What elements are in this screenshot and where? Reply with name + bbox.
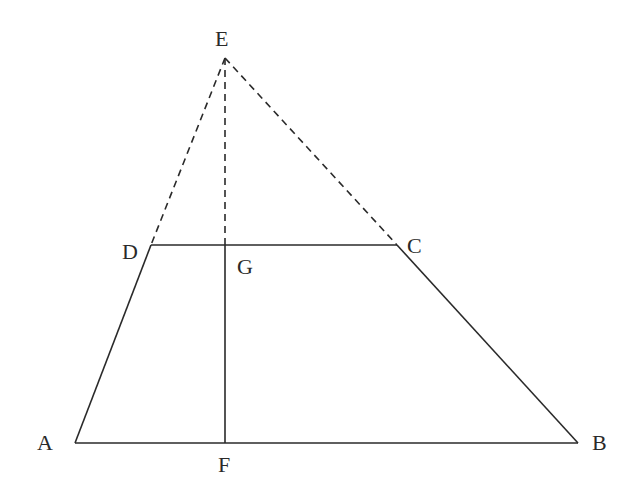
label-C: C bbox=[407, 233, 422, 258]
segment-ED bbox=[151, 58, 225, 245]
segment-EC bbox=[225, 58, 397, 245]
segment-AD bbox=[75, 245, 151, 443]
label-F: F bbox=[218, 452, 230, 477]
label-G: G bbox=[237, 254, 253, 279]
segment-CB bbox=[397, 245, 578, 443]
label-A: A bbox=[37, 430, 53, 455]
trapezoid-diagram: E D C G A B F bbox=[0, 0, 633, 486]
label-D: D bbox=[122, 239, 138, 264]
label-B: B bbox=[592, 430, 607, 455]
label-E: E bbox=[215, 26, 228, 51]
